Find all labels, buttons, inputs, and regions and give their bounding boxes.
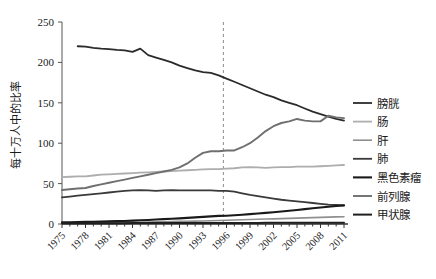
legend-label[interactable]: 肝 — [377, 135, 389, 147]
legend-label[interactable]: 肺 — [377, 153, 389, 165]
legend-label[interactable]: 前列腺 — [377, 190, 411, 203]
y-tick-label: 250 — [38, 16, 55, 28]
y-tick-label: 50 — [43, 178, 55, 190]
line-chart: 050100150200250 197519781981198419871990… — [0, 0, 436, 279]
chart-figure: 050100150200250 197519781981198419871990… — [0, 0, 436, 279]
legend-label[interactable]: 膀胱 — [377, 97, 400, 110]
legend-label[interactable]: 肠 — [377, 116, 388, 128]
y-tick-label: 150 — [38, 97, 55, 109]
series-line — [62, 223, 344, 224]
y-tick-label: 200 — [38, 56, 55, 68]
legend-label[interactable]: 黑色素瘤 — [377, 171, 422, 184]
y-axis-title: 每十万人中的比率 — [9, 81, 22, 169]
y-tick-label: 0 — [49, 218, 55, 230]
legend-label[interactable]: 甲状腺 — [377, 208, 411, 221]
y-tick-label: 100 — [38, 137, 55, 149]
